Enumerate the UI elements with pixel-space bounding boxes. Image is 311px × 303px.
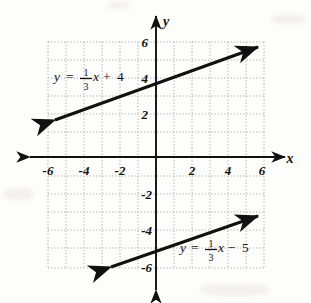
y-tick-label: 2 [141,107,149,122]
equation-label-line1-variable: x [92,69,99,84]
equation-label-line2-constant: 5 [242,240,249,255]
x-tick-label: -2 [115,163,126,178]
y-tick-label: 4 [141,71,149,86]
equation-label-line1-constant: 4 [117,69,124,84]
equation-label-line2-lhs: y [178,240,186,255]
x-tick-label: 4 [224,163,232,178]
x-tick-label: 6 [259,163,266,178]
equation-label-line2-variable: x [217,240,224,255]
y-tick-label: -6 [141,260,152,275]
x-tick-label: 2 [188,163,196,178]
equation-label-line2-operator: − [228,240,236,255]
equation-label-line1-numerator: 1 [84,67,89,78]
y-tick-label: -4 [141,223,152,238]
y-tick-label: 6 [142,35,149,50]
equation-label-line2-equals: = [191,240,199,255]
equation-label-line1-equals: = [66,69,74,84]
graph-figure: x y -6 -4 -2 2 4 6 6 4 2 -2 -4 -6 y = 1 … [0,0,311,303]
equation-label-line2: y = 1 3 x − 5 [178,238,249,263]
x-tick-label: -4 [79,163,90,178]
x-tick-label: -6 [43,163,54,178]
equation-label-line1-operator: + [103,69,111,84]
y-axis-label: y [161,14,170,29]
equation-label-line1-lhs: y [52,69,60,84]
equation-label-line2-numerator: 1 [209,238,214,249]
equation-label-line2-denominator: 3 [209,252,214,263]
y-tick-label: -2 [141,187,152,202]
x-axis-label: x [286,151,294,166]
equation-label-line1: y = 1 3 x + 4 [52,67,124,92]
equation-label-line1-denominator: 3 [84,81,89,92]
coordinate-plane: x y -6 -4 -2 2 4 6 6 4 2 -2 -4 -6 y = 1 … [0,0,311,303]
